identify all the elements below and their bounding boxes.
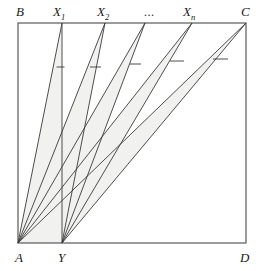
label-b: B (16, 4, 24, 19)
label-x1: X1 (52, 4, 65, 22)
label-y: Y (58, 250, 67, 265)
label-a: A (14, 250, 23, 265)
label-d: D (239, 250, 250, 265)
label-c: C (241, 4, 250, 19)
label-x1-subscript: 1 (61, 12, 65, 22)
label-x2-subscript: 2 (105, 12, 110, 22)
geometry-diagram: B C A Y D X1 X2 Xn ... (0, 0, 260, 271)
label-xn-subscript: n (191, 12, 195, 22)
label-xn: Xn (182, 4, 195, 22)
label-ellipsis: ... (144, 5, 155, 19)
label-x2: X2 (96, 4, 110, 22)
